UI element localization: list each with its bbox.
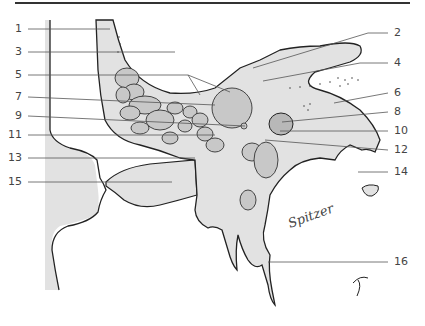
label-6: 6 xyxy=(394,87,401,99)
label-5: 5 xyxy=(0,69,22,81)
label-11: 11 xyxy=(0,129,22,141)
label-12: 12 xyxy=(394,144,408,156)
label-1: 1 xyxy=(0,23,22,35)
label-2: 2 xyxy=(394,27,401,39)
label-10: 10 xyxy=(394,125,408,137)
tongue-lobe xyxy=(106,160,197,207)
label-16: 16 xyxy=(394,256,408,268)
tubal-opening xyxy=(269,113,293,135)
label-13: 13 xyxy=(0,152,22,164)
isolated-structure xyxy=(362,185,378,196)
label-15: 15 xyxy=(0,176,22,188)
label-14: 14 xyxy=(394,166,408,178)
label-8: 8 xyxy=(394,106,401,118)
label-4: 4 xyxy=(394,57,401,69)
label-9: 9 xyxy=(0,110,22,122)
lower-right-fragment xyxy=(353,277,368,296)
artist-signature: Spitzer xyxy=(286,200,336,231)
anatomical-diagram: Spitzer xyxy=(0,0,425,326)
label-3: 3 xyxy=(0,46,22,58)
label-7: 7 xyxy=(0,91,22,103)
